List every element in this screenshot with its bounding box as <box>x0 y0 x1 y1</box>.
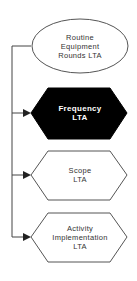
label-line: Equipment <box>61 42 100 51</box>
activity-node-label: Activity Implementation LTA <box>36 222 124 252</box>
label-line: LTA <box>72 113 87 122</box>
label-line: Scope <box>69 166 92 175</box>
label-line: LTA <box>73 175 87 184</box>
arrow-icon <box>23 171 31 179</box>
label-line: Activity <box>67 224 93 233</box>
arrow-icon <box>23 109 31 117</box>
label-line: Frequency <box>58 104 101 113</box>
scope-node-label: Scope LTA <box>40 162 120 188</box>
label-line: LTA <box>73 242 87 251</box>
root-node-label: Routine Equipment Rounds LTA <box>40 30 120 62</box>
label-line: Routine <box>66 33 94 42</box>
label-line: Rounds LTA <box>58 51 102 60</box>
arrow-icon <box>23 233 31 241</box>
frequency-node-label: Frequency LTA <box>40 100 120 126</box>
label-line: Implementation <box>52 233 107 242</box>
